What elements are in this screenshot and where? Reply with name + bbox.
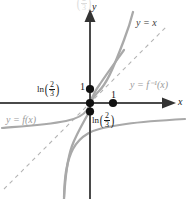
ln-bottom-prefix: ln xyxy=(92,116,99,125)
function-curve-steep-branch xyxy=(64,12,133,199)
ln-left-prefix: ln xyxy=(37,85,44,94)
identity-line-y-equals-x xyxy=(4,26,167,189)
ln-left-fraction: 23 xyxy=(49,81,55,98)
graph-canvas xyxy=(0,0,188,199)
ln-bottom-numerator: 2 xyxy=(104,112,110,120)
ln-bottom-denominator: 3 xyxy=(104,120,110,129)
function-curve xyxy=(64,119,185,197)
point-x-intercept-one xyxy=(109,99,117,107)
ln-left-paren-close: ) xyxy=(56,82,60,97)
ln-bottom-paren-open: ( xyxy=(100,113,104,128)
x-intercept-value-label: 1 xyxy=(111,90,116,100)
ln-two-thirds-left-label: ln(23) xyxy=(37,81,60,98)
ln-left-denominator: 3 xyxy=(49,89,55,98)
ln-left-numerator: 2 xyxy=(49,81,55,89)
x-axis-arrowhead xyxy=(162,98,176,109)
function-curve-label: y = f(x) xyxy=(6,115,36,125)
y-intercept-value-label: 1 xyxy=(80,82,85,92)
math-figure-exponential-and-inverse: (23) y x y = x y = f(x) y = f⁻¹(x) 1 1 xyxy=(0,0,188,199)
ln-two-thirds-bottom-label: ln(23) xyxy=(92,112,115,129)
x-axis-label: x xyxy=(178,97,182,107)
ln-left-paren-open: ( xyxy=(45,82,49,97)
inverse-curve-label: y = f⁻¹(x) xyxy=(130,80,168,90)
ln-bottom-fraction: 23 xyxy=(104,112,110,129)
identity-line-label: y = x xyxy=(136,18,157,28)
point-y-intercept-one xyxy=(86,85,94,93)
ln-bottom-paren-close: ) xyxy=(111,113,115,128)
y-axis-label: y xyxy=(92,2,96,12)
point-origin xyxy=(86,99,94,107)
